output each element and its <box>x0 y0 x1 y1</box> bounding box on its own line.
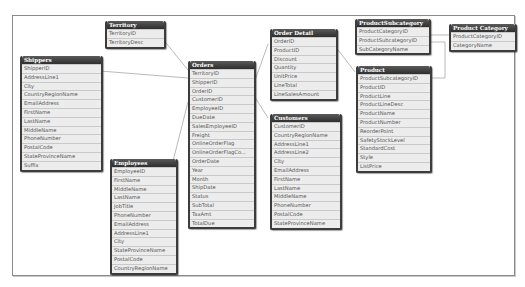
field[interactable]: SafetyStockLevel <box>358 136 430 145</box>
field[interactable]: ShipDate <box>190 183 254 192</box>
field[interactable]: DueDate <box>190 113 254 122</box>
field[interactable]: MiddleName <box>22 126 101 135</box>
field[interactable]: Style <box>358 153 430 162</box>
field[interactable]: LineTotal <box>272 81 336 90</box>
field[interactable]: LineSalesAmount <box>272 90 336 99</box>
field[interactable]: ProductNumber <box>358 118 430 127</box>
field[interactable]: JobTitle <box>112 202 176 211</box>
field[interactable]: StateProvinceName <box>112 246 176 255</box>
field[interactable]: PhoneNumber <box>112 211 176 220</box>
table-header: Product <box>358 66 430 74</box>
field[interactable]: LastName <box>112 193 176 202</box>
field[interactable]: StateProvinceName <box>22 152 101 161</box>
field[interactable]: ReorderPoint <box>358 127 430 136</box>
field[interactable]: TerritoryID <box>190 69 254 78</box>
field[interactable]: ProductCategoryID <box>451 32 515 41</box>
field[interactable]: Suffix <box>22 161 101 170</box>
table-customers[interactable]: Customers CustomerID CountryRegionName A… <box>270 114 342 230</box>
table-header: Territory <box>107 21 164 29</box>
table-product[interactable]: Product ProductSubcategoryID ProductID P… <box>356 66 432 173</box>
field[interactable]: StandardCost <box>358 144 430 153</box>
field[interactable]: PhoneNumber <box>272 201 340 210</box>
field[interactable]: PostalCode <box>22 143 101 152</box>
field[interactable]: LastName <box>22 117 101 126</box>
field[interactable]: ShipperID <box>22 64 101 73</box>
field[interactable]: EmailAddress <box>272 166 340 175</box>
field[interactable]: SalesEmployeeID <box>190 122 254 131</box>
table-header: Customers <box>272 114 340 122</box>
field[interactable]: MiddleName <box>272 192 340 201</box>
field[interactable]: FirstName <box>22 108 101 117</box>
field[interactable]: AddressLine1 <box>22 73 101 82</box>
field[interactable]: CategoryName <box>451 41 515 50</box>
field[interactable]: ProductLineDesc <box>358 100 430 109</box>
field[interactable]: SubCategoryName <box>357 45 429 54</box>
field[interactable]: EmailAddress <box>112 220 176 229</box>
field[interactable]: PostalCode <box>272 210 340 219</box>
field[interactable]: ProductID <box>272 46 336 55</box>
field[interactable]: ShipperID <box>190 78 254 87</box>
field[interactable]: AddressLine2 <box>272 148 340 157</box>
table-territory[interactable]: Territory TerritoryID TerritoryDesc <box>105 21 166 49</box>
field[interactable]: FirstName <box>112 176 176 185</box>
table-orders[interactable]: Orders TerritoryID ShipperID OrderID Cus… <box>188 61 256 229</box>
field[interactable]: Month <box>190 175 254 184</box>
table-product-category[interactable]: Product Category ProductCategoryID Categ… <box>449 24 517 52</box>
field[interactable]: Year <box>190 166 254 175</box>
field[interactable]: ListPrice <box>358 162 430 171</box>
field[interactable]: CountryRegionName <box>112 264 176 273</box>
field[interactable]: FirstName <box>272 175 340 184</box>
field[interactable]: CountryRegionName <box>22 90 101 99</box>
table-header: Orders <box>190 61 254 69</box>
field[interactable]: EmployeeID <box>112 167 176 176</box>
field[interactable]: Discount <box>272 55 336 64</box>
field[interactable]: TaxAmt <box>190 210 254 219</box>
field[interactable]: EmployeeID <box>190 104 254 113</box>
field[interactable]: MiddleName <box>112 185 176 194</box>
field[interactable]: TerritoryID <box>107 29 164 38</box>
table-product-subcategory[interactable]: ProductSubcategory ProductCategoryID Pro… <box>355 19 431 55</box>
table-employees[interactable]: Employees EmployeeID FirstName MiddleNam… <box>110 159 178 275</box>
field[interactable]: OnlineOrderFlag <box>190 139 254 148</box>
field[interactable]: City <box>22 82 101 91</box>
field[interactable]: OrderID <box>190 87 254 96</box>
field[interactable]: ProductSubcategoryID <box>358 74 430 83</box>
table-header: Employees <box>112 159 176 167</box>
field[interactable]: ProductCategoryID <box>357 27 429 36</box>
field[interactable]: PostalCode <box>112 255 176 264</box>
field[interactable]: City <box>112 237 176 246</box>
field[interactable]: Freight <box>190 131 254 140</box>
table-order-detail[interactable]: Order Detail OrderID ProductID Discount … <box>270 29 338 101</box>
field[interactable]: OnlineOrderFlagCo... <box>190 148 254 157</box>
field[interactable]: EmailAddress <box>22 99 101 108</box>
field[interactable]: SubTotal <box>190 201 254 210</box>
field[interactable]: AddressLine1 <box>272 140 340 149</box>
field[interactable]: ProductLine <box>358 92 430 101</box>
field[interactable]: ProductID <box>358 83 430 92</box>
field[interactable]: ProductName <box>358 109 430 118</box>
table-header: Shippers <box>22 56 101 64</box>
field[interactable]: ProductSubcategoryID <box>357 36 429 45</box>
field[interactable]: Quantity <box>272 63 336 72</box>
field[interactable]: OrderDate <box>190 157 254 166</box>
field[interactable]: CountryRegionName <box>272 131 340 140</box>
field[interactable]: AddressLine1 <box>112 229 176 238</box>
table-header: Order Detail <box>272 29 336 37</box>
field[interactable]: TerritoryDesc <box>107 38 164 47</box>
field[interactable]: PhoneNumber <box>22 134 101 143</box>
field[interactable]: CustomerID <box>272 122 340 131</box>
table-header: ProductSubcategory <box>357 19 429 27</box>
field[interactable]: LastName <box>272 184 340 193</box>
field[interactable]: CustomerID <box>190 95 254 104</box>
field[interactable]: UnitPrice <box>272 72 336 81</box>
field[interactable]: TotalDue <box>190 219 254 228</box>
table-shippers[interactable]: Shippers ShipperID AddressLine1 City Cou… <box>20 56 103 172</box>
field[interactable]: City <box>272 157 340 166</box>
field[interactable]: StateProvinceName <box>272 219 340 228</box>
field[interactable]: OrderID <box>272 37 336 46</box>
field[interactable]: Status <box>190 192 254 201</box>
table-header: Product Category <box>451 24 515 32</box>
